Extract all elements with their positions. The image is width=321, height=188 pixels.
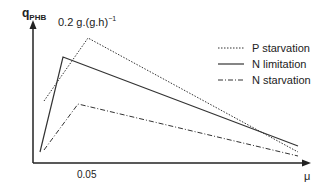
chart-plot-area — [0, 0, 321, 188]
legend: P starvation N limitation N starvation — [218, 40, 311, 88]
solid-line-icon — [218, 62, 244, 66]
x-axis-arrow-icon — [302, 160, 311, 167]
legend-item-n-limitation: N limitation — [218, 56, 311, 72]
legend-item-n-starvation: N starvation — [218, 72, 311, 88]
x-tick-label: 0.05 — [77, 169, 96, 180]
series-n-starvation — [44, 104, 298, 156]
x-axis-label: μ — [304, 170, 310, 182]
dash-dot-line-icon — [218, 78, 244, 82]
legend-item-p-starvation: P starvation — [218, 40, 311, 56]
scale-annotation: 0.2 g.(g.h)−1 — [58, 15, 116, 28]
y-axis-label: qPHB — [22, 6, 46, 22]
dotted-line-icon — [218, 46, 244, 50]
